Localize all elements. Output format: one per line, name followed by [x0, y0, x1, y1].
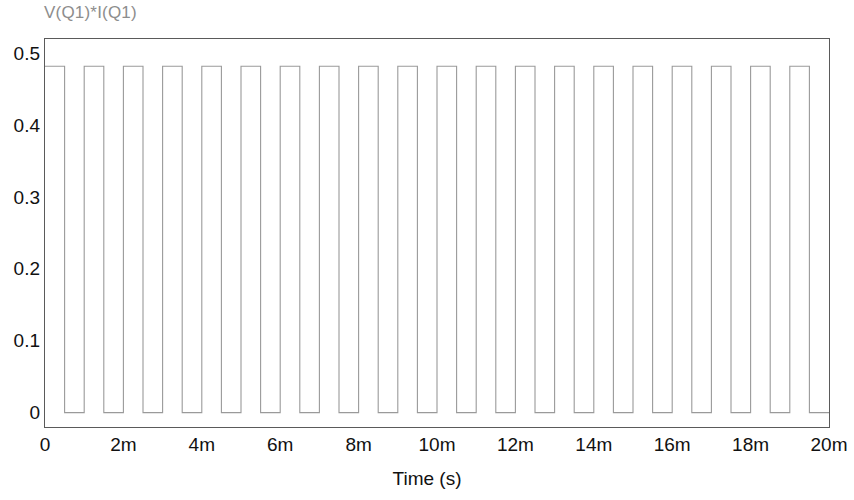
x-axis-tick-label: 4m — [189, 434, 215, 456]
y-axis-tick-label: 0.4 — [2, 116, 40, 135]
y-axis: 0.50.40.30.20.10 — [0, 0, 40, 500]
x-axis-tick-label: 10m — [419, 434, 456, 456]
waveform-svg — [45, 39, 829, 427]
y-axis-tick-label: 0.3 — [2, 188, 40, 207]
y-axis-tick-label: 0.5 — [2, 44, 40, 63]
x-axis-title: Time (s) — [0, 468, 854, 490]
x-axis-tick-label: 20m — [811, 434, 848, 456]
x-axis-tick-label: 14m — [575, 434, 612, 456]
y-axis-tick-label: 0 — [2, 403, 40, 422]
plot-frame — [44, 38, 830, 428]
x-axis: 02m4m6m8m10m12m14m16m18m20m — [0, 434, 854, 460]
x-axis-tick-label: 8m — [345, 434, 371, 456]
chart-plot-area: V(Q1)*I(Q1) 0.50.40.30.20.10 02m4m6m8m10… — [0, 0, 854, 500]
y-axis-tick-label: 0.2 — [2, 259, 40, 278]
series-title: V(Q1)*I(Q1) — [44, 2, 137, 24]
x-axis-tick-label: 6m — [267, 434, 293, 456]
x-axis-tick-label: 12m — [497, 434, 534, 456]
x-axis-tick-label: 16m — [654, 434, 691, 456]
waveform-trace — [45, 66, 829, 412]
y-axis-tick-label: 0.1 — [2, 331, 40, 350]
x-axis-tick-label: 18m — [732, 434, 769, 456]
x-axis-tick-label: 0 — [40, 434, 51, 456]
x-axis-tick-label: 2m — [110, 434, 136, 456]
